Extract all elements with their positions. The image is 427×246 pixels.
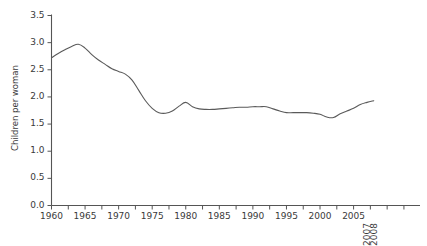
axis-lines [52, 15, 421, 206]
fertility-rate-line-chart: Children per woman 0.00.51.01.52.02.53.0… [0, 0, 427, 246]
y-tick-label: 3.5 [19, 10, 45, 20]
y-tick-label: 0.0 [19, 200, 45, 210]
y-tick-label: 2.5 [19, 64, 45, 74]
tick-marks [48, 16, 404, 210]
y-tick-label: 1.0 [19, 145, 45, 155]
y-tick-label: 1.5 [19, 118, 45, 128]
x-tick-label: 2008 [369, 212, 379, 246]
plot-area [0, 0, 427, 246]
series-line-fertility-rate [52, 44, 374, 118]
y-tick-label: 3.0 [19, 37, 45, 47]
y-tick-label: 2.0 [19, 91, 45, 101]
y-tick-label: 0.5 [19, 172, 45, 182]
